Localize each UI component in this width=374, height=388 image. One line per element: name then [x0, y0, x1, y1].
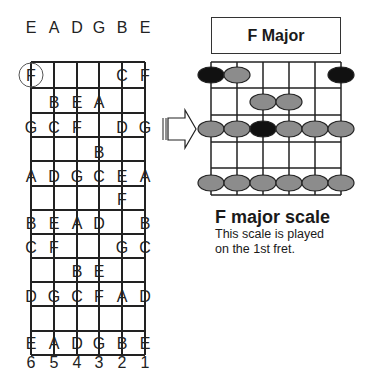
open-string-label: E — [26, 19, 37, 36]
note-label: A — [72, 215, 83, 232]
scale-note-dot — [224, 67, 250, 83]
scale-diagram: EADGBE654321FCFBEAGCFDGBADGCEAFBEADBCFGC… — [0, 0, 374, 388]
caption-line-1: This scale is played — [215, 227, 374, 242]
note-label: E — [26, 335, 37, 352]
note-label: G — [116, 239, 128, 256]
note-label: D — [116, 119, 128, 136]
note-label: C — [93, 168, 105, 185]
caption-heading: F major scale — [215, 207, 374, 227]
note-label: B — [117, 335, 128, 352]
root-note-dot — [198, 67, 224, 83]
note-label: E — [72, 94, 83, 111]
scale-note-dot — [198, 175, 224, 191]
note-label: G — [93, 335, 105, 352]
open-string-label: E — [140, 19, 151, 36]
string-number: 5 — [50, 354, 59, 371]
scale-note-dot — [198, 121, 224, 137]
note-label: G — [71, 168, 83, 185]
note-label: A — [94, 94, 105, 111]
note-label: C — [116, 67, 128, 84]
scale-note-dot — [276, 175, 302, 191]
open-string-label: D — [71, 19, 83, 36]
note-label: B — [49, 94, 60, 111]
note-label: F — [94, 288, 104, 305]
scale-note-dot — [302, 121, 328, 137]
note-label: D — [93, 215, 105, 232]
scale-title-box: F Major — [211, 17, 341, 54]
open-string-label: B — [117, 19, 128, 36]
note-label: C — [71, 288, 83, 305]
string-number: 3 — [95, 354, 104, 371]
note-label: E — [140, 335, 151, 352]
scale-note-dot — [302, 175, 328, 191]
note-label: F — [117, 191, 127, 208]
note-label: G — [139, 119, 151, 136]
note-label: A — [140, 168, 151, 185]
scale-note-dot — [276, 94, 302, 110]
note-label: E — [94, 263, 105, 280]
scale-note-dot — [224, 175, 250, 191]
note-label: A — [117, 288, 128, 305]
note-label: F — [26, 67, 36, 84]
note-label: D — [139, 288, 151, 305]
note-label: B — [72, 263, 83, 280]
scale-note-dot — [328, 175, 354, 191]
left-fretboard-notes: EADGBE654321FCFBEAGCFDGBADGCEAFBEADBCFGC… — [19, 19, 151, 371]
note-label: C — [25, 239, 37, 256]
note-label: A — [49, 335, 60, 352]
root-note-dot — [328, 67, 354, 83]
scale-note-dot — [276, 121, 302, 137]
note-label: C — [139, 239, 151, 256]
string-number: 2 — [118, 354, 127, 371]
note-label: A — [26, 168, 37, 185]
string-number: 4 — [73, 354, 82, 371]
note-label: C — [48, 119, 60, 136]
note-label: B — [140, 215, 151, 232]
note-label: B — [94, 144, 105, 161]
note-label: F — [49, 239, 59, 256]
open-string-label: G — [93, 19, 105, 36]
note-label: D — [48, 168, 60, 185]
note-label: B — [26, 215, 37, 232]
note-label: F — [140, 67, 150, 84]
note-label: D — [71, 335, 83, 352]
scale-note-dot — [328, 121, 354, 137]
caption: F major scale This scale is played on th… — [215, 207, 374, 257]
note-label: E — [49, 215, 60, 232]
caption-line-2: on the 1st fret. — [215, 242, 374, 257]
note-label: F — [72, 119, 82, 136]
open-string-label: A — [49, 19, 60, 36]
string-number: 6 — [27, 354, 36, 371]
note-label: G — [25, 119, 37, 136]
scale-note-dot — [250, 175, 276, 191]
note-label: E — [117, 168, 128, 185]
string-number: 1 — [141, 354, 150, 371]
scale-title: F Major — [248, 27, 305, 45]
scale-note-dot — [224, 121, 250, 137]
note-label: G — [48, 288, 60, 305]
right-fretboard-dots — [198, 67, 354, 191]
root-note-dot — [250, 121, 276, 137]
scale-note-dot — [250, 94, 276, 110]
right-arrow-icon — [163, 110, 196, 148]
note-label: D — [25, 288, 37, 305]
